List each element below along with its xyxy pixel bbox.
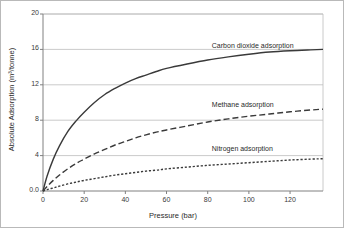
gridlines: [43, 14, 323, 156]
x-tick-label: 40: [110, 196, 140, 203]
y-tick-label: 12: [15, 80, 39, 87]
y-tick-label: 4: [15, 151, 39, 158]
x-tick-label: 80: [193, 196, 223, 203]
series-line-1: [43, 109, 323, 191]
x-axis-title: Pressure (bar): [1, 211, 345, 220]
y-tick-label: 16: [15, 44, 39, 51]
x-tick-label: 20: [69, 196, 99, 203]
x-tick-label: 120: [275, 196, 305, 203]
x-tick-label: 100: [234, 196, 264, 203]
series-label-nitrogen: Nitrogen adsorption: [212, 145, 273, 152]
series-line-2: [43, 159, 323, 191]
x-tick-label: 60: [152, 196, 182, 203]
series-label-methane: Methane adsorption: [212, 101, 274, 108]
plot-axes: [43, 14, 323, 191]
y-axis-title: Absolute Adsorption (m³/tonne): [5, 1, 19, 197]
chart-figure-frame: Absolute Adsorption (m³/tonne) Pressure …: [0, 0, 344, 228]
y-tick-label: 0.0: [15, 186, 39, 193]
y-tick-label: 20: [15, 9, 39, 16]
series-label-carbon: Carbon dioxide adsorption: [212, 42, 294, 49]
y-axis-title-text: Absolute Adsorption (m³/tonne): [8, 47, 17, 150]
y-tick-label: 8: [15, 115, 39, 122]
x-tick-label: 0: [28, 196, 58, 203]
adsorption-isotherm-chart: [1, 1, 345, 229]
